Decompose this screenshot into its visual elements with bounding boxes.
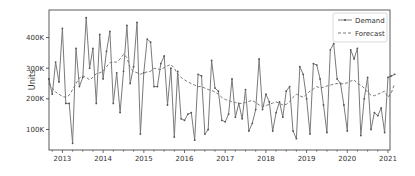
data-point-marker (248, 130, 250, 132)
data-point-marker (218, 90, 220, 92)
data-point-marker (363, 98, 365, 100)
data-point-marker (326, 132, 328, 134)
y-axis-label: Units (28, 70, 37, 90)
data-point-marker (68, 103, 70, 105)
data-point-marker (309, 133, 311, 135)
data-point-marker (116, 72, 118, 74)
data-point-marker (123, 70, 125, 72)
legend-label-demand: Demand (355, 17, 385, 25)
data-point-marker (221, 119, 223, 121)
data-point-marker (374, 112, 376, 114)
data-point-marker (99, 34, 101, 36)
data-point-marker (255, 109, 257, 111)
data-point-marker (289, 86, 291, 88)
data-point-marker (336, 78, 338, 80)
data-point-marker (292, 130, 294, 132)
x-tick-label: 2020 (338, 155, 356, 163)
data-point-marker (89, 67, 91, 69)
data-point-marker (150, 41, 152, 43)
data-point-marker (136, 21, 138, 23)
data-point-marker (262, 109, 264, 111)
data-point-marker (119, 112, 121, 114)
data-point-marker (180, 118, 182, 120)
data-point-marker (319, 78, 321, 80)
data-point-marker (380, 107, 382, 109)
data-point-marker (194, 139, 196, 141)
data-point-marker (313, 63, 315, 65)
data-point-marker (197, 73, 199, 75)
data-point-marker (384, 132, 386, 134)
data-point-marker (235, 116, 237, 118)
data-point-marker (391, 75, 393, 77)
data-point-marker (55, 61, 57, 63)
x-tick-label: 2014 (94, 155, 112, 163)
legend: Demand Forecast (333, 13, 387, 42)
legend-label-forecast: Forecast (355, 30, 385, 38)
data-point-marker (231, 78, 233, 80)
data-point-marker (85, 17, 87, 19)
x-tick-label: 2013 (54, 155, 72, 163)
data-point-marker (204, 133, 206, 135)
data-point-marker (133, 66, 135, 68)
data-point-marker (75, 47, 77, 49)
data-point-marker (343, 104, 345, 106)
data-point-marker (190, 112, 192, 114)
data-point-marker (51, 93, 53, 95)
data-point-marker (201, 75, 203, 77)
data-point-marker (302, 73, 304, 75)
data-point-marker (323, 104, 325, 106)
data-point-marker (360, 135, 362, 137)
demand-forecast-chart: 100K200K300K400K 20132014201520162017201… (0, 0, 415, 176)
data-point-marker (157, 86, 159, 88)
data-point-marker (245, 89, 247, 91)
data-point-marker (316, 64, 318, 66)
data-point-marker (140, 133, 142, 135)
data-point-marker (299, 66, 301, 68)
data-point-marker (346, 130, 348, 132)
y-tick-label: 100K (26, 126, 44, 134)
data-point-marker (350, 49, 352, 51)
data-point-marker (272, 130, 274, 132)
data-point-marker (62, 28, 64, 30)
data-point-marker (112, 103, 114, 105)
x-tick-label: 2017 (216, 155, 234, 163)
data-point-marker (228, 113, 230, 115)
data-point-marker (163, 55, 165, 57)
data-point-marker (184, 119, 186, 121)
x-tick-label: 2018 (257, 155, 275, 163)
data-point-marker (146, 38, 148, 40)
data-point-marker (58, 81, 60, 83)
data-point-marker (306, 98, 308, 100)
data-point-marker (241, 118, 243, 120)
data-point-marker (211, 60, 213, 62)
data-point-marker (370, 129, 372, 131)
data-point-marker (333, 43, 335, 45)
data-point-marker (92, 47, 94, 49)
data-point-marker (109, 31, 111, 33)
data-point-marker (79, 86, 81, 88)
data-point-marker (153, 86, 155, 88)
data-point-marker (394, 73, 396, 75)
data-point-marker (224, 121, 226, 123)
data-point-marker (329, 49, 331, 51)
data-point-marker (282, 116, 284, 118)
data-point-marker (251, 122, 253, 124)
data-point-marker (377, 115, 379, 117)
data-point-marker (187, 113, 189, 115)
data-point-marker (207, 129, 209, 131)
data-point-marker (167, 104, 169, 106)
data-point-marker (82, 77, 84, 79)
data-point-marker (275, 112, 277, 114)
data-point-marker (357, 47, 359, 49)
data-point-marker (265, 93, 267, 95)
data-point-marker (367, 77, 369, 79)
data-point-marker (279, 101, 281, 103)
data-point-marker (214, 87, 216, 89)
y-tick-label: 200K (26, 95, 44, 103)
data-point-marker (268, 101, 270, 103)
y-tick-label: 400K (26, 34, 44, 42)
x-tick-label: 2019 (298, 155, 316, 163)
x-axis: 201320142015201620172018201920202021 (52, 150, 397, 163)
data-point-marker (95, 103, 97, 105)
data-point-marker (126, 24, 128, 26)
